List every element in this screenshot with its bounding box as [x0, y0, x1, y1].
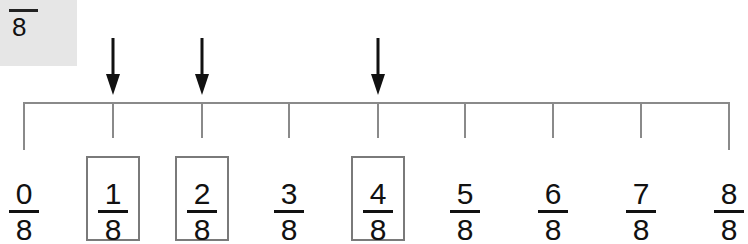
numerator: 3 [269, 180, 309, 208]
fraction-label: 48 [358, 180, 398, 244]
down-arrow-icon [103, 38, 123, 96]
denominator: 8 [93, 216, 133, 244]
fraction-label: 88 [709, 180, 748, 244]
fraction-label: 68 [533, 180, 573, 244]
tick-mark [377, 102, 379, 138]
numerator: 4 [358, 180, 398, 208]
numerator: 2 [182, 180, 222, 208]
numerator: 0 [4, 180, 44, 208]
denominator: 8 [621, 216, 661, 244]
fraction-label: 58 [445, 180, 485, 244]
fraction-label: 28 [182, 180, 222, 244]
numerator: 6 [533, 180, 573, 208]
tick-mark [112, 102, 114, 138]
answer-denominator: 8 [12, 14, 26, 40]
answer-box[interactable]: 8 [0, 0, 77, 66]
fraction-label: 18 [93, 180, 133, 244]
numerator: 8 [709, 180, 748, 208]
denominator: 8 [358, 216, 398, 244]
denominator: 8 [182, 216, 222, 244]
tick-mark [288, 102, 290, 138]
fraction-label: 08 [4, 180, 44, 244]
denominator: 8 [269, 216, 309, 244]
denominator: 8 [709, 216, 748, 244]
fraction-label: 78 [621, 180, 661, 244]
tick-mark [201, 102, 203, 138]
numerator: 7 [621, 180, 661, 208]
numerator: 5 [445, 180, 485, 208]
down-arrow-icon [368, 38, 388, 96]
denominator: 8 [4, 216, 44, 244]
down-arrow-icon [192, 38, 212, 96]
tick-mark [464, 102, 466, 138]
tick-mark [640, 102, 642, 138]
denominator: 8 [445, 216, 485, 244]
numerator: 1 [93, 180, 133, 208]
denominator: 8 [533, 216, 573, 244]
fraction-label: 38 [269, 180, 309, 244]
tick-mark [728, 102, 730, 150]
tick-mark [23, 102, 25, 150]
tick-mark [552, 102, 554, 138]
